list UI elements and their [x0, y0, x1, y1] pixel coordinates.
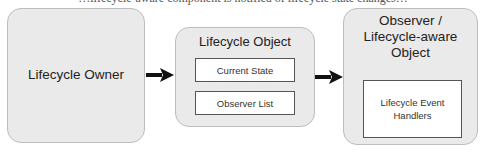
observer-label-line-3: Object	[344, 45, 477, 61]
observer-label-line-2: Lifecycle-aware	[344, 29, 477, 45]
observer-node: Observer / Lifecycle-aware Object Lifecy…	[343, 8, 478, 145]
observer-list-box: Observer List	[195, 91, 295, 115]
handlers-line-2: Handlers	[393, 109, 431, 122]
arrow-object-to-observer-icon	[315, 70, 343, 84]
lifecycle-event-handlers-box: Lifecycle Event Handlers	[363, 80, 462, 138]
observer-label: Observer / Lifecycle-aware Object	[344, 13, 477, 61]
arrow-owner-to-object-icon	[146, 68, 174, 82]
lifecycle-object-node: Lifecycle Object Current State Observer …	[175, 27, 315, 127]
lifecycle-owner-node: Lifecycle Owner	[7, 8, 145, 143]
clipped-caption-text: …lifecycle-aware component is notified o…	[0, 0, 486, 6]
current-state-box: Current State	[195, 58, 295, 82]
observer-label-line-1: Observer /	[344, 13, 477, 29]
handlers-line-1: Lifecycle Event	[381, 96, 445, 109]
lifecycle-owner-label: Lifecycle Owner	[8, 67, 144, 82]
lifecycle-object-label: Lifecycle Object	[176, 34, 314, 49]
